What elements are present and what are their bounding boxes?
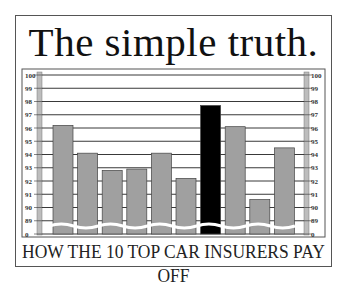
y-tick-label-left: 95 [25,138,33,146]
y-tick-label-left: 89 [25,217,33,225]
y-tick-label-left: 99 [25,85,33,93]
y-tick-label-right: 99 [311,85,319,93]
y-tick-label-right: 92 [311,178,319,186]
y-tick-label-right: 98 [311,98,319,106]
y-tick-label-left: 98 [25,98,33,106]
y-tick-label-right: 89 [311,217,319,225]
y-tick-label-left: 100 [25,72,36,80]
y-tick-label-right: 94 [311,151,319,159]
y-tick-label-left: 91 [25,191,33,199]
bar [201,105,221,234]
bar [78,153,98,234]
bar [274,148,294,234]
y-tick-label-right: 90 [311,204,319,212]
y-tick-label-left: 92 [25,178,33,186]
y-tick-label-right: 95 [311,138,319,146]
bar [225,127,245,234]
y-tick-label-left: 96 [25,125,33,133]
y-tick-label-right: 0 [311,231,315,239]
y-tick-label-right: 97 [311,111,319,119]
right-axis-strip [304,72,309,235]
y-tick-label-left: 0 [25,231,29,239]
y-tick-label-left: 97 [25,111,33,119]
y-tick-label-left: 93 [25,164,33,172]
bar [127,169,147,234]
y-tick-label-right: 93 [311,164,319,172]
bar [250,200,270,234]
y-tick-label-right: 100 [311,72,322,80]
y-tick-label-left: 90 [25,204,33,212]
bar [151,153,171,234]
y-tick-label-right: 96 [311,125,319,133]
y-tick-label-right: 91 [311,191,319,199]
chart-footer: HOW THE 10 TOP CAR INSURERS PAY OFF [14,240,333,286]
bar [53,125,73,234]
left-axis-strip [37,72,42,235]
y-tick-label-left: 94 [25,151,33,159]
